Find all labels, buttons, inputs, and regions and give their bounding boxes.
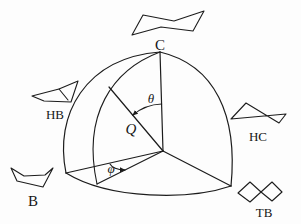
sphere-equator-arc — [66, 173, 231, 195]
half-chair-ring-drawing — [231, 103, 286, 123]
half-boat-ring-drawing — [32, 81, 78, 102]
half-boat-fold-line — [59, 89, 68, 100]
q-vector-line — [109, 87, 163, 151]
polar-axis-line — [160, 52, 163, 151]
twist-boat-ring-drawing — [238, 182, 282, 202]
sphere-octant — [63, 52, 232, 195]
figure-canvas: C HB B HC TB Q θ φ — [0, 0, 301, 224]
equator-right-radius-line — [163, 151, 231, 186]
phi-angle-symbol: φ — [107, 161, 114, 176]
sphere-right-meridian-arc — [160, 52, 232, 186]
boat-label: B — [28, 193, 38, 209]
twist-boat-label: TB — [256, 205, 273, 220]
chair-ring-drawing — [132, 11, 204, 35]
conformational-sphere-figure: C HB B HC TB Q θ φ — [0, 0, 301, 224]
q-amplitude-symbol: Q — [126, 121, 137, 137]
half-chair-label: HC — [249, 129, 267, 144]
boat-ring-drawing — [11, 168, 53, 187]
chair-label: C — [155, 37, 165, 53]
theta-angle-symbol: θ — [148, 91, 155, 106]
figure-labels: C HB B HC TB Q θ φ — [28, 37, 273, 220]
half-boat-label: HB — [46, 107, 64, 122]
